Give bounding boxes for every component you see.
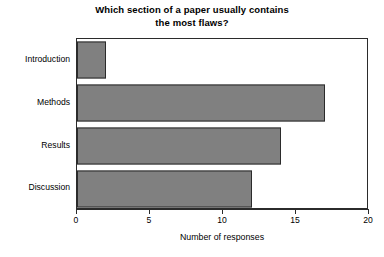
bar-row bbox=[77, 39, 367, 82]
bar-discussion bbox=[77, 170, 252, 207]
chart-title-line-2: the most flaws? bbox=[60, 17, 324, 30]
bar-introduction bbox=[77, 42, 106, 79]
y-tick-label-introduction: Introduction bbox=[0, 38, 70, 81]
y-tick-label-discussion: Discussion bbox=[0, 166, 70, 209]
y-tick-label-results: Results bbox=[0, 124, 70, 167]
x-tick-label: 5 bbox=[129, 215, 169, 225]
x-tick-label: 20 bbox=[348, 215, 384, 225]
x-tick-mark bbox=[149, 209, 150, 214]
x-axis-title: Number of responses bbox=[76, 232, 368, 242]
x-tick-mark bbox=[368, 209, 369, 214]
plot-area bbox=[76, 38, 368, 209]
bar-row bbox=[77, 125, 367, 168]
x-tick-mark bbox=[295, 209, 296, 214]
bar-row bbox=[77, 82, 367, 125]
bar-chart-figure: Which section of a paper usually contain… bbox=[0, 0, 384, 257]
x-tick-mark bbox=[222, 209, 223, 214]
bar-row bbox=[77, 167, 367, 210]
x-tick-label: 15 bbox=[275, 215, 315, 225]
x-tick-mark bbox=[76, 209, 77, 214]
x-tick-label: 10 bbox=[202, 215, 242, 225]
y-tick-label-methods: Methods bbox=[0, 81, 70, 124]
bar-results bbox=[77, 127, 281, 164]
chart-title: Which section of a paper usually contain… bbox=[60, 4, 324, 29]
y-axis-tick-labels: Introduction Methods Results Discussion bbox=[0, 38, 70, 209]
bar-methods bbox=[77, 85, 325, 122]
bars-layer bbox=[77, 39, 367, 208]
x-tick-label: 0 bbox=[56, 215, 96, 225]
chart-title-line-1: Which section of a paper usually contain… bbox=[60, 4, 324, 17]
